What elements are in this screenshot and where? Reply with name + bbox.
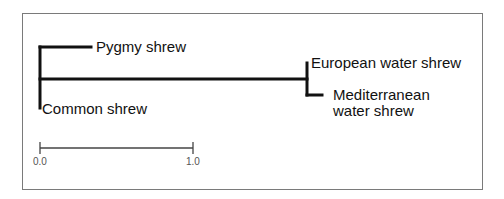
tree-branches	[40, 47, 322, 108]
scale-end-label: 1.0	[186, 156, 200, 167]
taxon-label-pygmy-shrew: Pygmy shrew	[96, 39, 186, 55]
taxon-label-european-water-shrew: European water shrew	[311, 55, 461, 71]
scale-start-label: 0.0	[33, 156, 47, 167]
taxon-label-common-shrew: Common shrew	[42, 101, 147, 117]
scale-bar	[40, 142, 193, 154]
taxon-label-mediterranean-line1: Mediterranean	[333, 87, 430, 103]
taxon-label-mediterranean-line2: water shrew	[333, 103, 414, 119]
